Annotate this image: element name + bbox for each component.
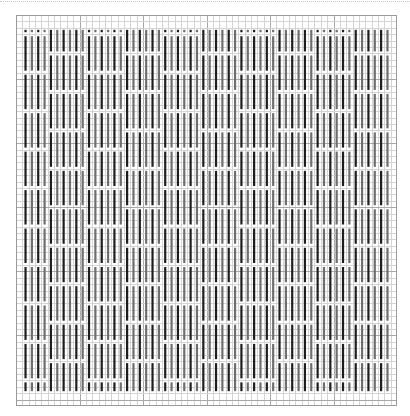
pattern-chart <box>16 15 397 406</box>
top-dotted-rule <box>0 1 410 2</box>
pattern-grid-svg <box>16 15 397 406</box>
